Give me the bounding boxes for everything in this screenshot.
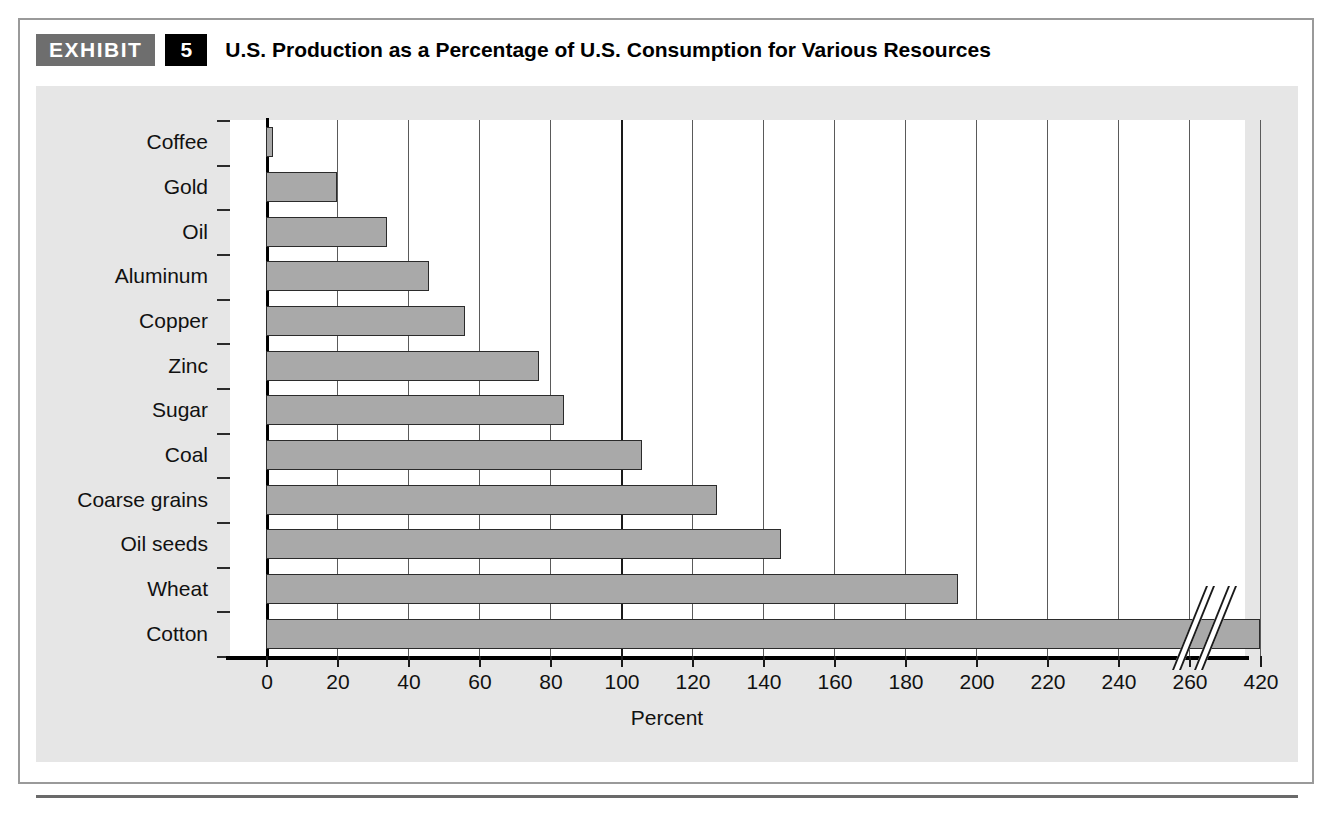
category-label: Copper bbox=[139, 309, 208, 333]
category-label: Oil bbox=[182, 220, 208, 244]
category-label: Coarse grains bbox=[77, 488, 208, 512]
x-tick-label: 240 bbox=[1101, 670, 1136, 694]
category-tick bbox=[217, 165, 230, 167]
exhibit-page: EXHIBIT 5 U.S. Production as a Percentag… bbox=[0, 0, 1336, 816]
exhibit-header: EXHIBIT 5 U.S. Production as a Percentag… bbox=[36, 32, 991, 68]
x-tick bbox=[1189, 656, 1191, 667]
x-axis-line bbox=[226, 656, 1249, 660]
bar-sugar bbox=[266, 395, 564, 425]
x-tick bbox=[692, 656, 694, 667]
x-axis-title: Percent bbox=[36, 706, 1298, 730]
bar-zinc bbox=[266, 351, 539, 381]
x-tick bbox=[1118, 656, 1120, 667]
bar-coarse-grains bbox=[266, 485, 717, 515]
chart-panel: CoffeeGoldOilAluminumCopperZincSugarCoal… bbox=[36, 86, 1298, 762]
category-label: Sugar bbox=[152, 398, 208, 422]
bar-copper bbox=[266, 306, 465, 336]
x-tick bbox=[408, 656, 410, 667]
x-tick bbox=[479, 656, 481, 667]
x-tick bbox=[337, 656, 339, 667]
category-label: Cotton bbox=[146, 622, 208, 646]
x-tick bbox=[1260, 656, 1262, 667]
category-label: Oil seeds bbox=[120, 532, 208, 556]
x-tick-label: 220 bbox=[1030, 670, 1065, 694]
exhibit-title: U.S. Production as a Percentage of U.S. … bbox=[225, 38, 991, 62]
category-axis: CoffeeGoldOilAluminumCopperZincSugarCoal… bbox=[36, 120, 230, 656]
x-tick-label: 60 bbox=[468, 670, 491, 694]
x-tick-label: 200 bbox=[959, 670, 994, 694]
bar-oil bbox=[266, 217, 387, 247]
x-tick-label: 140 bbox=[746, 670, 781, 694]
category-tick bbox=[217, 522, 230, 524]
x-tick bbox=[621, 656, 623, 667]
x-tick bbox=[763, 656, 765, 667]
category-tick bbox=[217, 567, 230, 569]
category-tick bbox=[217, 343, 230, 345]
category-label: Aluminum bbox=[115, 264, 208, 288]
x-tick-label: 100 bbox=[604, 670, 639, 694]
bar-cotton bbox=[266, 619, 1260, 649]
bottom-rule bbox=[36, 795, 1298, 798]
bar-wheat bbox=[266, 574, 958, 604]
x-tick-label: 20 bbox=[326, 670, 349, 694]
bar-gold bbox=[266, 172, 337, 202]
category-tick bbox=[217, 299, 230, 301]
category-tick bbox=[217, 611, 230, 613]
bar-coffee bbox=[266, 127, 273, 157]
x-tick-label: 40 bbox=[397, 670, 420, 694]
category-label: Coal bbox=[165, 443, 208, 467]
category-tick bbox=[217, 388, 230, 390]
category-tick bbox=[217, 254, 230, 256]
category-label: Coffee bbox=[147, 130, 209, 154]
x-tick bbox=[550, 656, 552, 667]
category-label: Wheat bbox=[147, 577, 208, 601]
category-tick bbox=[217, 433, 230, 435]
x-tick-label: 420 bbox=[1243, 670, 1278, 694]
x-tick bbox=[266, 656, 268, 667]
category-tick bbox=[217, 209, 230, 211]
x-tick-label: 0 bbox=[261, 670, 273, 694]
x-tick-label: 80 bbox=[539, 670, 562, 694]
x-tick bbox=[905, 656, 907, 667]
bar-oil-seeds bbox=[266, 529, 781, 559]
bars-layer bbox=[230, 120, 1245, 656]
x-tick-label: 160 bbox=[817, 670, 852, 694]
x-tick bbox=[976, 656, 978, 667]
x-tick bbox=[1047, 656, 1049, 667]
x-tick-label: 180 bbox=[888, 670, 923, 694]
bar-coal bbox=[266, 440, 642, 470]
category-label: Zinc bbox=[168, 354, 208, 378]
category-tick bbox=[217, 477, 230, 479]
exhibit-number-badge: 5 bbox=[165, 34, 207, 66]
page-left-margin bbox=[0, 0, 18, 816]
category-label: Gold bbox=[164, 175, 208, 199]
x-tick-label: 120 bbox=[675, 670, 710, 694]
x-tick bbox=[834, 656, 836, 667]
bar-aluminum bbox=[266, 261, 429, 291]
x-tick-label: 260 bbox=[1172, 670, 1207, 694]
exhibit-badge: EXHIBIT bbox=[36, 34, 155, 66]
plot-area bbox=[230, 120, 1245, 656]
category-tick bbox=[217, 120, 230, 122]
gridline bbox=[1260, 120, 1261, 656]
